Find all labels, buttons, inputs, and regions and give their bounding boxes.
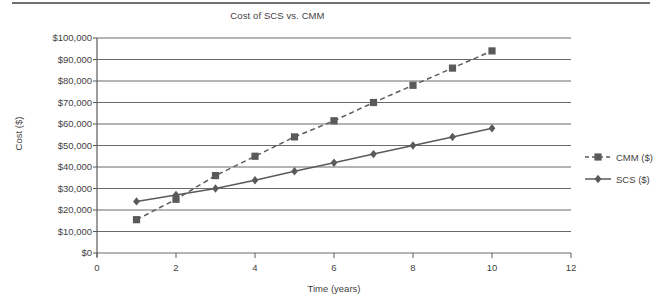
data-point-marker xyxy=(252,176,259,184)
data-point-marker xyxy=(449,65,456,72)
data-point-marker xyxy=(489,124,496,132)
legend-swatch-icon xyxy=(584,172,612,186)
data-point-marker xyxy=(212,184,219,192)
chart-figure: Cost of SCS vs. CMM Cost ($) Time (years… xyxy=(0,0,662,306)
data-point-marker xyxy=(291,133,298,140)
data-point-marker xyxy=(409,82,416,89)
data-point-marker xyxy=(291,167,298,175)
data-point-marker xyxy=(410,141,417,149)
data-point-marker xyxy=(330,117,337,124)
data-point-marker xyxy=(331,159,338,167)
data-point-marker xyxy=(133,197,140,205)
legend-item-cmm[interactable]: CMM ($) xyxy=(584,146,662,168)
data-point-marker xyxy=(449,133,456,141)
legend-item-label: CMM ($) xyxy=(616,152,653,163)
data-point-marker xyxy=(370,99,377,106)
legend-swatch-icon xyxy=(584,150,612,164)
legend-item-label: SCS ($) xyxy=(616,174,650,185)
data-point-marker xyxy=(133,216,140,223)
data-point-marker xyxy=(370,150,377,158)
legend-item-scs[interactable]: SCS ($) xyxy=(584,168,662,190)
plot-area xyxy=(0,0,662,306)
chart-legend: CMM ($)SCS ($) xyxy=(584,146,662,190)
data-point-marker xyxy=(212,172,219,179)
series-line xyxy=(137,51,493,220)
data-point-marker xyxy=(251,153,258,160)
data-point-marker xyxy=(488,47,495,54)
